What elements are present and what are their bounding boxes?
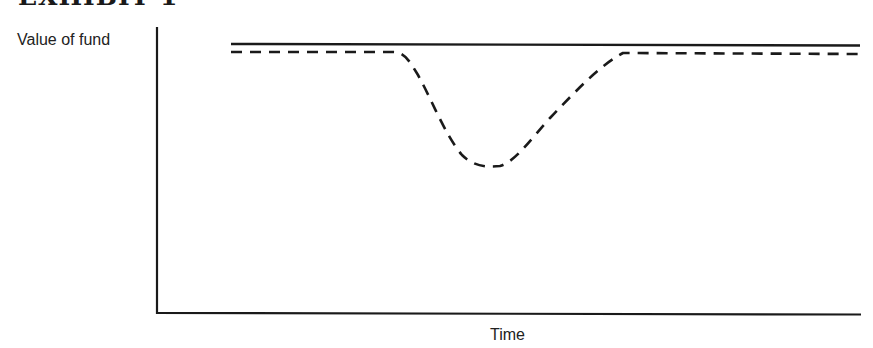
x-axis — [156, 313, 861, 315]
solid-line-series — [231, 44, 860, 46]
dashed-line — [231, 52, 860, 167]
dashed-line-series — [231, 52, 860, 167]
solid-line — [231, 44, 860, 46]
chart-plot-area — [0, 0, 873, 348]
